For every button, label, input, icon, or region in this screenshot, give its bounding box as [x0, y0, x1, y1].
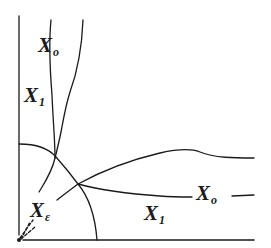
label-base: X: [38, 33, 52, 57]
upper-right-boundary: [78, 149, 254, 184]
diagonal-to-origin: [57, 184, 78, 200]
label-subscript: ε: [45, 210, 50, 224]
label-base: X: [196, 181, 210, 205]
lower-right-boundary-tail: [232, 195, 254, 196]
right-vertical-boundary: [55, 20, 83, 158]
label-base: X: [144, 201, 158, 225]
label-x0-upper: Xo: [38, 35, 59, 58]
label-subscript: o: [211, 193, 217, 207]
arc-boundary: [19, 144, 97, 240]
lower-right-boundary: [78, 184, 192, 197]
label-subscript: o: [53, 45, 59, 59]
label-x1-left: X1: [24, 85, 45, 108]
label-subscript: 1: [159, 213, 165, 227]
label-x1-bottom: X1: [144, 203, 165, 226]
dashed-ray-3: [21, 222, 30, 239]
label-x0-right: Xo: [196, 183, 217, 206]
label-base: X: [30, 198, 44, 222]
label-subscript: 1: [39, 95, 45, 109]
origin-point: [17, 238, 21, 242]
label-xeps-origin: Xε: [30, 200, 50, 223]
label-base: X: [24, 83, 38, 107]
